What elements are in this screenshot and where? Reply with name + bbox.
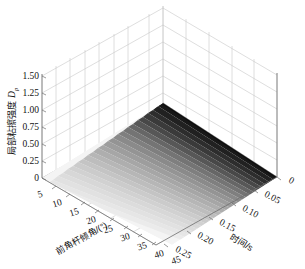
z-axis-title-symbol: D [7, 91, 17, 99]
z-tick-label-1: 0.25 [22, 156, 39, 166]
x-axis-title: 前角杆倾角/(°) [54, 219, 109, 256]
z-axis-ticks: 0 0.25 0.50 0.75 1.00 1.25 1.50 [22, 71, 46, 183]
surface-bands [43, 103, 277, 249]
surface-plot-figure: 0 0.25 0.50 0.75 1.00 1.25 1.50 局部粘擦强度 D… [0, 0, 305, 269]
x-tick-label-15: 15 [68, 206, 80, 219]
z-tick-label-3: 0.75 [22, 122, 39, 132]
z-axis-title-subscript: p [12, 87, 19, 92]
x-tick-label-35: 35 [136, 240, 148, 253]
z-tick-label-6: 1.50 [22, 71, 39, 81]
surface-mesh [42, 103, 277, 249]
x-tick-label-5: 5 [36, 189, 44, 200]
z-tick-label-0: 0 [34, 173, 39, 183]
x-tick-label-40: 40 [153, 248, 165, 261]
y-tick-label-0: 0 [287, 175, 296, 186]
z-axis-title: 局部粘擦强度 D p [6, 87, 19, 155]
z-tick-label-5: 1.25 [22, 88, 39, 98]
y-axis-title: 时间/s [228, 231, 256, 254]
z-axis-title-text: 局部粘擦强度 [6, 101, 17, 155]
z-tick-label-4: 1.00 [22, 105, 39, 115]
plot-canvas: 0 0.25 0.50 0.75 1.00 1.25 1.50 局部粘擦强度 D… [0, 0, 305, 269]
x-tick-label-10: 10 [51, 197, 63, 210]
x-tick-label-30: 30 [119, 231, 131, 244]
z-tick-label-2: 0.50 [22, 139, 39, 149]
y-tick-label-020: 0.20 [196, 230, 216, 247]
y-tick-label-005: 0.05 [263, 189, 283, 206]
y-tick-label-010: 0.10 [241, 203, 261, 220]
